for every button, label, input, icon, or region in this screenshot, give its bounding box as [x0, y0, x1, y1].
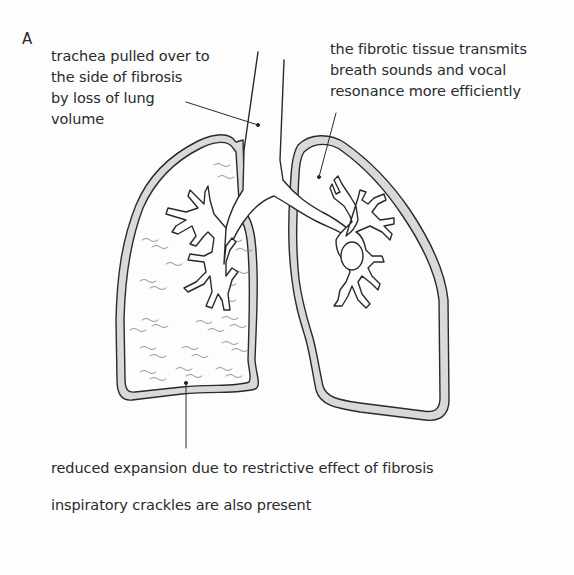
fibrotic-leader-dot — [317, 175, 320, 178]
trachea-leader-line — [186, 102, 258, 125]
reduced-expansion-leader-dot — [184, 381, 187, 384]
trachea-leader-dot — [256, 123, 259, 126]
lung-diagram — [0, 0, 574, 575]
fibrotic-lung-inner — [124, 142, 250, 392]
fibrotic-lung — [116, 135, 258, 400]
bronchial-gap — [341, 242, 363, 270]
